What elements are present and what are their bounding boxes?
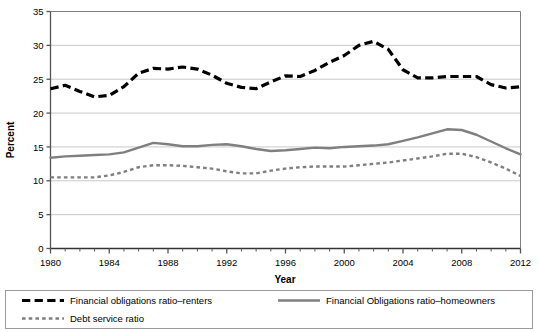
chart-legend: Financial obligations ratio–rentersFinan… [6, 291, 533, 329]
line-chart: 05101520253035 1980198419881992199620002… [0, 0, 538, 332]
chart-figure: 05101520253035 1980198419881992199620002… [0, 0, 538, 332]
x-tick-label: 2000 [334, 257, 355, 268]
legend-label: Financial obligations ratio–renters [70, 295, 212, 306]
y-tick-label: 20 [33, 108, 44, 119]
y-axis-title: Percent [5, 121, 16, 158]
y-tick-label: 0 [38, 243, 43, 254]
chart-background [0, 0, 538, 332]
y-tick-label: 5 [38, 209, 43, 220]
x-tick-label: 2012 [510, 257, 531, 268]
x-tick-label: 1996 [275, 257, 296, 268]
x-axis-title: Year [274, 274, 295, 285]
y-tick-label: 25 [33, 74, 44, 85]
legend-label: Debt service ratio [70, 313, 144, 324]
x-tick-label: 1980 [40, 257, 61, 268]
y-tick-label: 30 [33, 40, 44, 51]
y-tick-label: 10 [33, 175, 44, 186]
x-tick-label: 2004 [392, 257, 413, 268]
x-tick-label: 1992 [216, 257, 237, 268]
y-tick-label: 15 [33, 142, 44, 153]
legend-label: Financial Obligations ratio–homeowners [326, 295, 495, 306]
x-tick-label: 2008 [451, 257, 472, 268]
x-tick-label: 1988 [157, 257, 178, 268]
y-tick-label: 35 [33, 6, 44, 17]
x-tick-label: 1984 [99, 257, 120, 268]
